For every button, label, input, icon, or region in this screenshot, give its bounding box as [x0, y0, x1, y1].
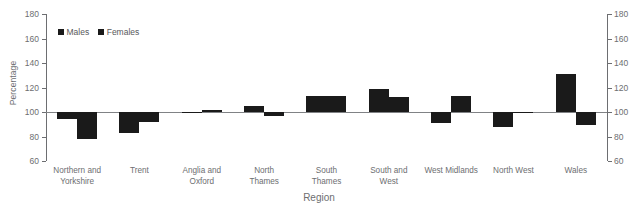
legend-swatch-icon: [98, 29, 104, 35]
y-tick-label-right: 140: [614, 59, 628, 68]
category-label-line: Anglia and: [171, 166, 233, 177]
category-label: Northern andYorkshire: [46, 166, 108, 187]
bar-females: [264, 112, 284, 116]
category-label-line: Wales: [545, 166, 607, 177]
y-tick-right: [608, 137, 612, 138]
y-tick-label-right: 180: [614, 10, 628, 19]
bar-group: [482, 14, 544, 161]
bar-males: [244, 106, 264, 112]
bar-group: [171, 14, 233, 161]
y-tick-label-right: 100: [614, 108, 628, 117]
category-label: SouthThames: [295, 166, 357, 187]
bar-males: [182, 112, 202, 113]
y-tick-right: [608, 112, 612, 113]
x-axis-title: Region: [0, 192, 638, 203]
y-tick-label-right: 120: [614, 84, 628, 93]
category-label-line: Northern and: [46, 166, 108, 177]
y-tick-label-right: 80: [614, 133, 623, 142]
bar-females: [389, 97, 409, 112]
y-tick-right: [608, 161, 612, 162]
legend: MalesFemales: [58, 27, 139, 37]
y-tick-right: [608, 39, 612, 40]
bar-chart: Percentage 60608080100100120120140140160…: [0, 0, 638, 215]
category-label: South andWest: [358, 166, 420, 187]
bar-males: [369, 89, 389, 112]
category-label-line: South and: [358, 166, 420, 177]
y-tick-label-right: 60: [614, 157, 623, 166]
cropped-title-remnant: [0, 0, 638, 5]
bar-females: [451, 96, 471, 112]
category-label: Trent: [108, 166, 170, 177]
y-tick-right: [608, 63, 612, 64]
legend-item: Males: [58, 27, 89, 37]
y-tick-label-left: 120: [15, 84, 39, 93]
category-label-line: West Midlands: [420, 166, 482, 177]
bar-females: [513, 112, 533, 113]
legend-item: Females: [98, 27, 139, 37]
y-tick-left: [42, 161, 46, 162]
bar-males: [57, 112, 77, 119]
category-label-line: North: [233, 166, 295, 177]
bar-females: [326, 96, 346, 112]
category-label: NorthThames: [233, 166, 295, 187]
y-tick-label-left: 100: [15, 108, 39, 117]
category-label-line: Trent: [108, 166, 170, 177]
bar-males: [119, 112, 139, 133]
bar-males: [493, 112, 513, 127]
bar-females: [77, 112, 97, 139]
category-label-line: North West: [482, 166, 544, 177]
category-label-line: Oxford: [171, 177, 233, 188]
bar-males: [431, 112, 451, 123]
bar-group: [233, 14, 295, 161]
bar-group: [295, 14, 357, 161]
category-label: Anglia andOxford: [171, 166, 233, 187]
bar-females: [139, 112, 159, 122]
category-label: Wales: [545, 166, 607, 177]
y-tick-label-right: 160: [614, 35, 628, 44]
category-label: North West: [482, 166, 544, 177]
category-label-line: West: [358, 177, 420, 188]
category-label-line: South: [295, 166, 357, 177]
y-tick-right: [608, 88, 612, 89]
y-tick-label-left: 180: [15, 10, 39, 19]
y-tick-right: [608, 14, 612, 15]
legend-swatch-icon: [58, 29, 64, 35]
category-label: West Midlands: [420, 166, 482, 177]
bar-females: [576, 112, 596, 125]
bar-males: [556, 74, 576, 112]
y-tick-label-left: 160: [15, 35, 39, 44]
category-label-line: Thames: [233, 177, 295, 188]
category-label-line: Yorkshire: [46, 177, 108, 188]
bar-group: [545, 14, 607, 161]
y-tick-label-left: 80: [15, 133, 39, 142]
legend-label: Females: [107, 27, 140, 37]
bar-group: [420, 14, 482, 161]
legend-label: Males: [67, 27, 90, 37]
bar-group: [358, 14, 420, 161]
y-tick-label-left: 140: [15, 59, 39, 68]
bar-females: [202, 110, 222, 112]
bar-males: [306, 96, 326, 112]
y-tick-label-left: 60: [15, 157, 39, 166]
category-label-line: Thames: [295, 177, 357, 188]
